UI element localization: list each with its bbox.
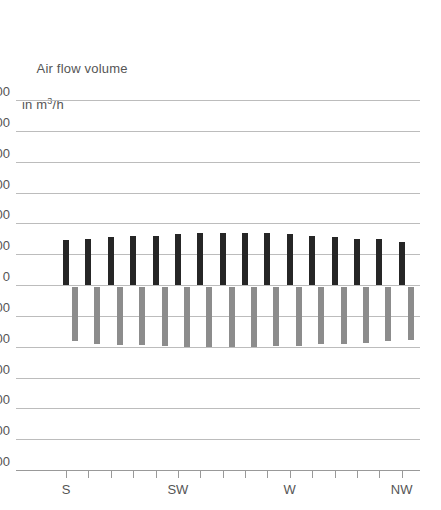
bar-positive <box>197 233 203 285</box>
bar-negative <box>229 287 235 347</box>
bar-positive <box>354 239 360 285</box>
gridline--1000: -1000 <box>16 439 420 440</box>
x-axis-label-w: W <box>284 482 296 497</box>
bar-positive <box>309 236 315 285</box>
x-tick <box>156 470 157 478</box>
y-tick-label-0: 0 <box>3 269 10 285</box>
bar-positive <box>287 234 293 285</box>
chart-axis-title-line1: Air flow volume <box>37 61 128 76</box>
x-axis-label-s: S <box>62 482 71 497</box>
y-tick-label--1000: -1000 <box>0 423 10 439</box>
bar-negative <box>385 287 391 341</box>
x-tick <box>200 470 201 478</box>
gridline-400: 400 <box>16 223 420 224</box>
x-tick <box>402 470 403 478</box>
bar-positive <box>376 239 382 285</box>
y-tick-label--400: -400 <box>0 331 10 347</box>
x-tick <box>223 470 224 478</box>
bar-negative <box>94 287 100 344</box>
x-tick <box>66 470 67 478</box>
y-tick-label--600: -600 <box>0 362 10 378</box>
gridline-600: 600 <box>16 193 420 194</box>
bar-positive <box>153 236 159 285</box>
x-tick <box>379 470 380 478</box>
gridline-800: 800 <box>16 162 420 163</box>
x-tick <box>178 470 179 478</box>
bar-negative <box>408 287 414 340</box>
bar-negative <box>273 287 279 346</box>
gridline--800: -800 <box>16 408 420 409</box>
x-tick <box>335 470 336 478</box>
gridline--400: -400 <box>16 347 420 348</box>
y-tick-label-600: 600 <box>0 177 10 193</box>
bar-positive <box>264 233 270 285</box>
bar-negative <box>139 287 145 345</box>
x-axis: SSWWNW <box>62 470 420 510</box>
x-tick <box>312 470 313 478</box>
x-tick <box>245 470 246 478</box>
x-tick <box>267 470 268 478</box>
bar-positive <box>85 239 91 285</box>
bar-positive <box>63 240 69 285</box>
bar-positive <box>399 242 405 285</box>
x-axis-label-sw: SW <box>167 482 188 497</box>
bar-negative <box>363 287 369 343</box>
bar-negative <box>72 287 78 341</box>
y-tick-label--200: -200 <box>0 300 10 316</box>
x-tick <box>290 470 291 478</box>
y-tick-label-200: 200 <box>0 238 10 254</box>
plot-area: 120010008006004002000-200-400-600-800-10… <box>62 100 420 470</box>
y-tick-label-400: 400 <box>0 207 10 223</box>
bar-positive <box>242 233 248 285</box>
bar-negative <box>206 287 212 347</box>
bar-negative <box>296 287 302 346</box>
bar-positive <box>130 236 136 285</box>
y-tick-label-800: 800 <box>0 146 10 162</box>
y-tick-label--800: -800 <box>0 392 10 408</box>
gridline--600: -600 <box>16 378 420 379</box>
x-tick <box>357 470 358 478</box>
x-tick <box>111 470 112 478</box>
air-flow-volume-chart: Air flow volume in m3/h 1200100080060040… <box>0 0 441 510</box>
bar-positive <box>220 233 226 285</box>
gridline-1000: 1000 <box>16 131 420 132</box>
bar-negative <box>162 287 168 346</box>
bar-negative <box>341 287 347 344</box>
bar-negative <box>251 287 257 347</box>
y-tick-label-1200: 1200 <box>0 84 10 100</box>
x-axis-label-nw: NW <box>391 482 413 497</box>
bar-negative <box>184 287 190 347</box>
gridline-1200: 1200 <box>16 100 420 101</box>
bar-positive <box>332 237 338 285</box>
bar-negative <box>117 287 123 345</box>
bar-positive <box>175 234 181 285</box>
y-tick-label--1200: -1200 <box>0 454 10 470</box>
y-tick-label-1000: 1000 <box>0 115 10 131</box>
bar-positive <box>108 237 114 285</box>
bar-negative <box>318 287 324 344</box>
gridline-0: 0 <box>16 285 420 286</box>
x-tick <box>88 470 89 478</box>
x-tick <box>133 470 134 478</box>
